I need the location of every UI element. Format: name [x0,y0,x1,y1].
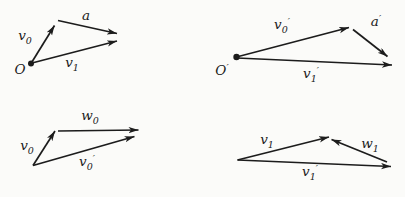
figure-canvas: v0 a v1 O v0′ a′ v1′ O′ v0 w0 v0′ [0,0,405,197]
vector-v1-prime-label: v1′ [303,65,320,84]
vector-v1-prime-line [237,58,392,65]
vector-w0-line [58,130,139,131]
vector-v1-label: v1 [65,54,79,73]
vector-v0-prime-label: v0′ [274,16,291,35]
origin-label: O [14,61,25,77]
diagram-bottom-right: v1 w1 v1′ [238,131,392,182]
vector-a-prime-line [353,30,388,57]
diagram-bottom-left: v0 w0 v0′ [20,107,138,172]
vector-v0-prime-label: v0′ [79,153,96,172]
vector-w0-label: w0 [81,107,99,126]
origin-prime-label: O′ [215,62,229,78]
vector-v1-label: v1 [260,131,274,150]
vector-v0-label: v0 [20,137,34,156]
vector-v1-prime-line [238,160,392,167]
vector-v0-prime-line [237,28,350,58]
vector-v1-prime-label: v1′ [302,163,319,182]
vector-v0-label: v0 [18,27,32,46]
vector-a-label: a [82,7,90,23]
vector-v1-line [238,137,330,160]
vector-diagram-svg: v0 a v1 O v0′ a′ v1′ O′ v0 w0 v0′ [0,0,405,197]
vector-v1-line [32,41,117,63]
diagram-top-left: v0 a v1 O [14,7,117,77]
vector-w1-label: w1 [361,135,379,154]
vector-a-prime-label: a′ [371,13,382,29]
diagram-top-right: v0′ a′ v1′ O′ [215,13,392,84]
